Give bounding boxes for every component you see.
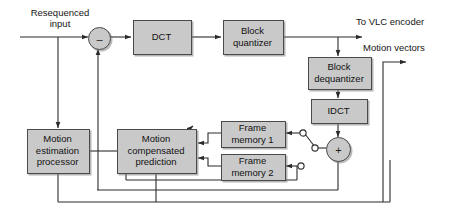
block-motion-estimation-processor-label: Motion estimation processor xyxy=(27,129,88,172)
block-quantizer-label: Block quantizer xyxy=(223,20,282,53)
block-motion-compensated-prediction-label: Motion compensated prediction xyxy=(117,129,195,172)
block-idct-label: IDCT xyxy=(311,99,366,122)
wire-motion-vectors-out xyxy=(383,62,406,202)
block-dct-label: DCT xyxy=(133,20,190,53)
wire-fm2-to-mcp xyxy=(198,158,221,166)
block-frame-memory-1-label: Frame memory 1 xyxy=(221,121,284,146)
wire-fm1-to-mcp xyxy=(198,133,221,143)
subtractor-symbol: – xyxy=(96,33,102,45)
switch-contact-1 xyxy=(300,130,306,136)
adder-symbol: + xyxy=(335,144,341,156)
switch-contact-2 xyxy=(298,163,304,169)
block-frame-memory-2-label: Frame memory 2 xyxy=(221,154,284,179)
mpeg-encoder-diagram: DCT Block quantizer Block dequantizer ID… xyxy=(0,0,453,212)
adder-junction: + xyxy=(326,137,351,162)
frame-memory-selector-switch[interactable] xyxy=(294,126,324,172)
block-dequantizer-label: Block dequantizer xyxy=(308,57,370,88)
motion-vectors-label: Motion vectors xyxy=(363,42,425,53)
switch-pivot xyxy=(312,145,318,151)
subtractor-junction: – xyxy=(88,27,111,50)
to-vlc-encoder-label: To VLC encoder xyxy=(356,16,424,27)
